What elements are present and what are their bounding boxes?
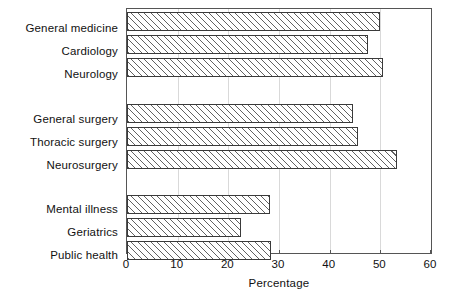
category-label-public-health: Public health	[0, 249, 118, 261]
category-axis-labels: General medicine Cardiology Neurology Ge…	[0, 8, 118, 254]
xtick-label-30: 30	[258, 258, 298, 271]
tickmark-40	[330, 250, 331, 254]
bar-geriatrics	[127, 218, 241, 237]
xtick-label-20: 20	[207, 258, 247, 271]
bar-chart: General medicine Cardiology Neurology Ge…	[0, 0, 455, 304]
bar-public-health	[127, 241, 271, 260]
category-label-general-surgery: General surgery	[0, 113, 118, 125]
xtick-label-0: 0	[106, 258, 146, 271]
x-axis-title: Percentage	[126, 277, 432, 290]
bar-neurosurgery	[127, 150, 397, 169]
bar-cardiology	[127, 35, 368, 54]
tickmark-30	[279, 250, 280, 254]
bar-thoracic-surgery	[127, 127, 358, 146]
category-label-neurology: Neurology	[0, 68, 118, 80]
xtick-label-50: 50	[359, 258, 399, 271]
bar-mental-illness	[127, 195, 270, 214]
bar-neurology	[127, 58, 383, 77]
xtick-label-10: 10	[157, 258, 197, 271]
category-label-mental-illness: Mental illness	[0, 203, 118, 215]
category-label-thoracic-surgery: Thoracic surgery	[0, 136, 118, 148]
gridline-50	[380, 9, 381, 253]
category-label-neurosurgery: Neurosurgery	[0, 159, 118, 171]
category-label-geriatrics: Geriatrics	[0, 226, 118, 238]
category-label-general-medicine: General medicine	[0, 22, 118, 34]
tickmark-50	[380, 250, 381, 254]
bar-general-medicine	[127, 12, 380, 31]
bar-general-surgery	[127, 104, 353, 123]
xtick-label-60: 60	[410, 258, 450, 271]
category-label-cardiology: Cardiology	[0, 45, 118, 57]
xtick-label-40: 40	[309, 258, 349, 271]
tickmark-60	[430, 250, 431, 254]
plot-area	[126, 8, 432, 254]
